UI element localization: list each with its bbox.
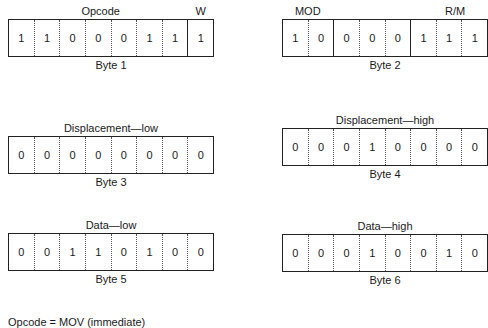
bit-box: 0 0 0 1 0 0 0 0	[282, 128, 488, 166]
byte-5: Data—low 0 0 1 1 0 1 0 0 Byte 5	[8, 219, 214, 285]
bit-cell: 1	[283, 20, 308, 56]
byte-6: Data—high 0 0 0 1 0 0 1 0 Byte 6	[282, 220, 488, 286]
field-labels: Displacement—low	[8, 122, 214, 136]
bit-cell: 0	[385, 129, 411, 165]
bit-cell: 0	[59, 20, 85, 56]
bit-box: 1 0 0 0 0 1 1 1	[282, 19, 488, 57]
bit-cell: 0	[283, 235, 308, 271]
bit-cell: 0	[34, 234, 60, 270]
bit-cell: 1	[34, 20, 60, 56]
bit-cell: 0	[162, 137, 188, 173]
field-labels: Displacement—high	[282, 114, 488, 128]
bit-cell: 0	[333, 129, 359, 165]
bit-cell: 0	[333, 235, 359, 271]
byte-4: Displacement—high 0 0 0 1 0 0 0 0 Byte 4	[282, 114, 488, 180]
bit-cell: 1	[359, 235, 385, 271]
bit-cell: 0	[187, 137, 213, 173]
bit-cell: 0	[34, 137, 60, 173]
field-labels: Data—low	[8, 219, 214, 233]
bit-cell: 0	[461, 129, 487, 165]
bit-cell: 0	[85, 137, 111, 173]
field-labels: Opcode W	[8, 5, 214, 19]
bit-cell: 1	[162, 20, 188, 56]
bit-cell: 1	[187, 20, 213, 56]
bit-box: 0 0 0 1 0 0 1 0	[282, 234, 488, 272]
field-label-displacement-high: Displacement—high	[336, 114, 434, 126]
bit-cell: 0	[59, 137, 85, 173]
byte-caption: Byte 2	[282, 59, 488, 71]
byte-caption: Byte 5	[8, 273, 214, 285]
bit-cell: 0	[162, 234, 188, 270]
bit-cell: 0	[461, 235, 487, 271]
bit-cell: 0	[308, 20, 334, 56]
bit-cell: 0	[9, 234, 34, 270]
field-label-w: W	[195, 5, 205, 17]
bit-cell: 0	[111, 234, 137, 270]
bit-cell: 0	[136, 137, 162, 173]
bit-box: 0 0 1 1 0 1 0 0	[8, 233, 214, 271]
field-label-mod: MOD	[295, 5, 321, 17]
bit-cell: 0	[187, 234, 213, 270]
field-labels: Data—high	[282, 220, 488, 234]
bit-cell: 1	[359, 129, 385, 165]
byte-1: Opcode W 1 1 0 0 0 1 1 1 Byte 1	[8, 5, 214, 71]
bit-box: 0 0 0 0 0 0 0 0	[8, 136, 214, 174]
byte-caption: Byte 6	[282, 274, 488, 286]
byte-caption: Byte 3	[8, 176, 214, 188]
bit-cell: 0	[111, 137, 137, 173]
bit-cell: 1	[9, 20, 34, 56]
field-label-data-high: Data—high	[357, 220, 412, 232]
byte-3: Displacement—low 0 0 0 0 0 0 0 0 Byte 3	[8, 122, 214, 188]
bit-cell: 0	[111, 20, 137, 56]
bit-cell: 0	[410, 129, 436, 165]
bit-cell: 1	[136, 234, 162, 270]
bit-box: 1 1 0 0 0 1 1 1	[8, 19, 214, 57]
bit-cell: 0	[308, 129, 334, 165]
field-label-data-low: Data—low	[86, 219, 137, 231]
bit-cell: 0	[385, 235, 411, 271]
footer-note: Opcode = MOV (immediate)	[8, 316, 145, 328]
bit-cell: 1	[85, 234, 111, 270]
bit-cell: 0	[410, 235, 436, 271]
field-labels: MOD R/M	[282, 5, 488, 19]
bit-cell: 0	[308, 235, 334, 271]
bit-cell: 0	[283, 129, 308, 165]
bit-cell: 1	[59, 234, 85, 270]
field-label-opcode: Opcode	[81, 5, 120, 17]
byte-2: MOD R/M 1 0 0 0 0 1 1 1 Byte 2	[282, 5, 488, 71]
bit-cell: 0	[333, 20, 359, 56]
bit-cell: 0	[359, 20, 385, 56]
byte-caption: Byte 4	[282, 168, 488, 180]
bit-cell: 0	[85, 20, 111, 56]
bit-cell: 1	[436, 235, 462, 271]
bit-cell: 1	[410, 20, 436, 56]
field-label-rm: R/M	[445, 5, 465, 17]
bit-cell: 1	[436, 20, 462, 56]
bit-cell: 1	[136, 20, 162, 56]
field-label-displacement-low: Displacement—low	[64, 122, 158, 134]
bit-cell: 1	[461, 20, 487, 56]
bit-cell: 0	[436, 129, 462, 165]
bit-cell: 0	[9, 137, 34, 173]
bit-cell: 0	[385, 20, 411, 56]
byte-caption: Byte 1	[8, 59, 214, 71]
